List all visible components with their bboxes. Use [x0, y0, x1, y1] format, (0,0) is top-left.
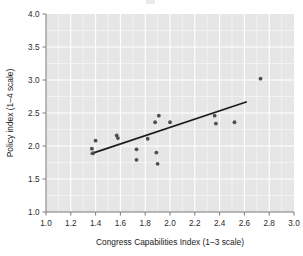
x-tick-label: 2.0: [164, 219, 176, 228]
x-tick-label: 2.2: [189, 219, 201, 228]
data-point: [214, 122, 218, 126]
y-tick-label: 2.5: [28, 109, 40, 118]
data-point: [153, 120, 157, 124]
x-tick-label: 3.0: [288, 219, 300, 228]
x-tick-label: 1.2: [65, 219, 77, 228]
y-tick-label: 2.0: [28, 142, 40, 151]
scatter-plot-svg: 1.0 1.5 2.0 2.5 3.0 3.5 4.0 1.0 1.2 1.4 …: [0, 0, 303, 256]
data-point: [90, 147, 94, 151]
data-point: [154, 151, 158, 155]
x-tick-labels: 1.0 1.2 1.4 1.6 1.8 2.0 2.2 2.4 2.6 2.8 …: [40, 219, 300, 228]
y-tick-label: 1.5: [28, 175, 40, 184]
data-point: [91, 151, 95, 155]
data-point: [157, 114, 161, 118]
x-tick-label: 2.4: [214, 219, 226, 228]
data-point: [94, 139, 98, 143]
chart-figure: 1.0 1.5 2.0 2.5 3.0 3.5 4.0 1.0 1.2 1.4 …: [0, 0, 303, 256]
data-point: [156, 162, 160, 166]
data-point: [259, 77, 263, 81]
y-tick-marks: [43, 14, 47, 212]
y-tick-label: 4.0: [28, 10, 40, 19]
data-point: [213, 114, 217, 118]
y-tick-labels: 1.0 1.5 2.0 2.5 3.0 3.5 4.0: [28, 10, 40, 217]
x-tick-label: 1.6: [115, 219, 127, 228]
y-axis-title: Policy index (1–4 scale): [5, 69, 15, 158]
y-tick-label: 3.5: [28, 43, 40, 52]
scan-artifact: [146, 0, 155, 4]
x-tick-label: 1.0: [40, 219, 52, 228]
x-tick-marks: [46, 212, 294, 216]
data-point: [146, 137, 150, 141]
y-tick-label: 1.0: [28, 208, 40, 217]
x-tick-label: 1.4: [90, 219, 102, 228]
x-axis-title: Congress Capabilities Index (1–3 scale): [96, 237, 244, 247]
x-tick-label: 1.8: [140, 219, 152, 228]
data-point: [135, 158, 139, 162]
data-point: [233, 120, 237, 124]
data-point: [135, 147, 139, 151]
y-tick-label: 3.0: [28, 76, 40, 85]
x-tick-label: 2.8: [264, 219, 276, 228]
data-point: [168, 120, 172, 124]
x-tick-label: 2.6: [239, 219, 251, 228]
data-point: [116, 136, 120, 140]
